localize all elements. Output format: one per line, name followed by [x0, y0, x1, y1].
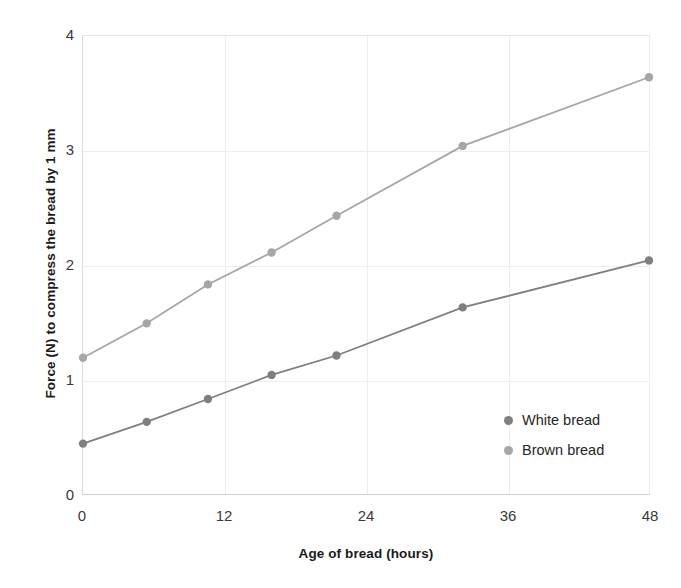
data-point-marker[interactable]: [79, 354, 87, 362]
data-point-marker[interactable]: [332, 212, 340, 220]
x-tick-label: 12: [194, 508, 254, 523]
chart-container: 01234 012243648 Force (N) to compress th…: [0, 0, 681, 588]
y-axis-ticks: 01234: [0, 0, 74, 588]
series-line: [83, 77, 649, 357]
x-axis-title: Age of bread (hours): [82, 546, 650, 561]
y-tick-label: 4: [12, 27, 74, 42]
data-point-marker[interactable]: [645, 73, 653, 81]
x-axis-ticks: 012243648: [0, 508, 681, 532]
data-point-marker[interactable]: [204, 395, 212, 403]
data-point-marker[interactable]: [79, 439, 87, 447]
x-tick-label: 24: [336, 508, 396, 523]
data-point-marker[interactable]: [458, 303, 466, 311]
data-point-marker[interactable]: [142, 418, 150, 426]
data-point-marker[interactable]: [267, 248, 275, 256]
data-point-marker[interactable]: [645, 256, 653, 264]
chart-legend: White bread Brown bread: [504, 405, 604, 465]
x-tick-label: 48: [620, 508, 680, 523]
y-tick-label: 0: [12, 487, 74, 502]
data-point-marker[interactable]: [142, 319, 150, 327]
legend-item-white-bread[interactable]: White bread: [504, 405, 604, 435]
data-point-marker[interactable]: [332, 351, 340, 359]
legend-item-label: Brown bread: [522, 442, 604, 458]
data-point-marker[interactable]: [458, 142, 466, 150]
x-tick-label: 36: [478, 508, 538, 523]
legend-item-brown-bread[interactable]: Brown bread: [504, 435, 604, 465]
legend-item-label: White bread: [522, 412, 600, 428]
data-point-marker[interactable]: [267, 371, 275, 379]
legend-marker-icon: [504, 446, 513, 455]
data-point-marker[interactable]: [204, 280, 212, 288]
x-tick-label: 0: [52, 508, 112, 523]
legend-marker-icon: [504, 416, 513, 425]
y-axis-title: Force (N) to compress the bread by 1 mm: [43, 64, 58, 464]
